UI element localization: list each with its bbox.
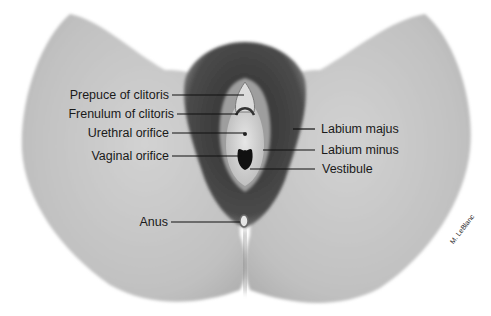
label-vestibule: Vestibule [322, 162, 373, 176]
label-urethral-orifice: Urethral orifice [88, 126, 169, 140]
illustration [0, 0, 491, 316]
label-vaginal-orifice: Vaginal orifice [91, 149, 169, 163]
label-anus: Anus [140, 215, 169, 229]
label-prepuce-of-clitoris: Prepuce of clitoris [70, 88, 169, 102]
label-labium-minus: Labium minus [321, 143, 399, 157]
anatomy-diagram: Prepuce of clitoris Frenulum of clitoris… [0, 0, 491, 316]
anus-shape [240, 215, 248, 227]
label-frenulum-of-clitoris: Frenulum of clitoris [68, 107, 174, 121]
label-labium-majus: Labium majus [321, 122, 399, 136]
